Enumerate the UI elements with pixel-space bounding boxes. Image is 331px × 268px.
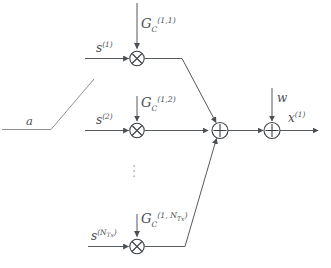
ellipsis-dot: .	[129, 170, 139, 175]
sum-junction-node	[212, 123, 263, 139]
gain-label-branch-n: GC(1, NTx)	[141, 212, 187, 226]
gain-label-branch-2: GC(1,2)	[141, 96, 176, 110]
input-label-branch-2: s(2)	[96, 114, 113, 126]
diagram-svg	[0, 0, 331, 268]
gain-label-branch-1: GC(1,1)	[141, 17, 176, 31]
stray-leading-line	[2, 79, 94, 130]
input-label-branch-n: s(NTx)	[91, 230, 117, 242]
input-label-branch-1: s(1)	[96, 42, 113, 54]
stray-line-label: a	[26, 116, 33, 128]
vertical-ellipsis: . . .	[129, 160, 139, 175]
output-label: x(1)	[288, 112, 305, 124]
figure-canvas: . . . a GC(1,1) s(1) GC(1,2) s(2) GC(1, …	[0, 0, 331, 268]
noise-label: w	[277, 92, 287, 104]
